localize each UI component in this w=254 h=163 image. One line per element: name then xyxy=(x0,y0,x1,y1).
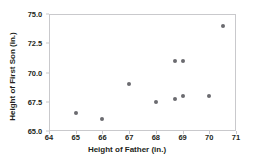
x-tick-label: 71 xyxy=(232,133,240,142)
data-point xyxy=(127,82,131,86)
x-tick-mark xyxy=(129,131,130,134)
data-point xyxy=(173,97,177,101)
x-tick-mark xyxy=(102,131,103,134)
x-tick-mark xyxy=(209,131,210,134)
data-point xyxy=(181,59,185,63)
data-point xyxy=(173,59,177,63)
x-tick-mark xyxy=(183,131,184,134)
x-tick-mark xyxy=(156,131,157,134)
scatter-chart: Height of First Son (in.) 65.067.570.072… xyxy=(0,0,254,163)
x-tick-label: 66 xyxy=(98,133,106,142)
x-tick-label: 67 xyxy=(125,133,133,142)
x-tick-label: 70 xyxy=(205,133,213,142)
x-tick-label: 68 xyxy=(152,133,160,142)
x-tick-mark xyxy=(76,131,77,134)
data-point xyxy=(100,117,104,121)
y-tick-label: 70.0 xyxy=(28,68,42,77)
y-tick-label: 75.0 xyxy=(28,10,42,19)
data-point xyxy=(181,94,185,98)
x-tick-label: 64 xyxy=(45,133,53,142)
data-point xyxy=(207,94,211,98)
x-tick-mark xyxy=(49,131,50,134)
x-axis-title: Height of Father (in.) xyxy=(0,145,254,154)
x-tick-mark xyxy=(236,131,237,134)
y-tick-label: 67.5 xyxy=(28,97,42,106)
data-point xyxy=(154,100,158,104)
x-tick-label: 69 xyxy=(178,133,186,142)
data-point xyxy=(74,111,78,115)
data-points-layer xyxy=(49,14,236,131)
y-tick-label: 72.5 xyxy=(28,39,42,48)
data-point xyxy=(221,24,225,28)
x-tick-label: 65 xyxy=(72,133,80,142)
